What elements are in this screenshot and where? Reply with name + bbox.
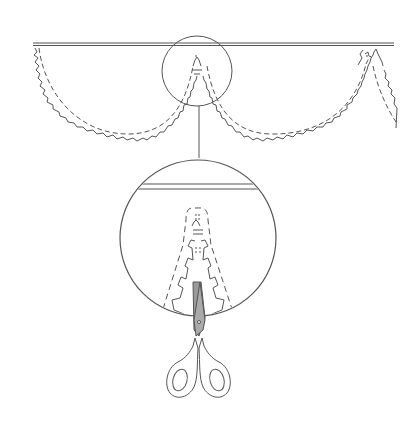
garland-swag-right <box>358 49 397 128</box>
hanging-line <box>33 43 394 46</box>
garland-diagram <box>0 0 411 425</box>
diagram-stage: Paper garland cutting illustration <box>0 0 411 425</box>
garland-swag-left <box>34 48 376 141</box>
detail-marker-circle <box>162 36 232 106</box>
